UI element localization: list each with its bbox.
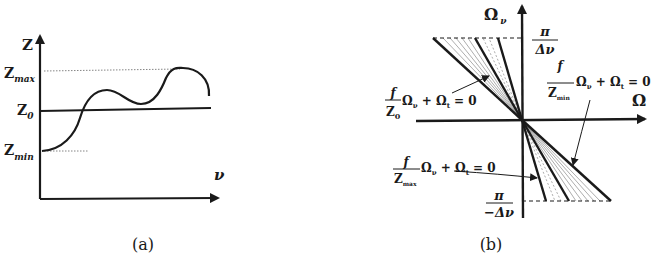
- svg-text:Zmin: Zmin: [548, 86, 570, 101]
- svg-text:π: π: [539, 24, 550, 39]
- pointer-zmin: [573, 100, 590, 165]
- nu-axis: [40, 198, 218, 199]
- equation-z0: f Z0 Ων + Ωt = 0: [385, 86, 477, 121]
- caption-a: (a): [132, 235, 154, 254]
- nu-axis-label: ν: [214, 166, 225, 184]
- bottom-limit-label: π −Δν: [484, 188, 514, 220]
- omega-axis: [416, 119, 645, 121]
- svg-text:−Δν: −Δν: [484, 205, 514, 220]
- top-limit-label: π Δν: [532, 24, 558, 57]
- figure-b: Ων Ω π Δν π −Δν f Z0 Ων + Ωt = 0: [385, 5, 651, 254]
- svg-text:f: f: [556, 59, 564, 73]
- svg-text:π: π: [493, 188, 504, 203]
- z-axis-label: Z: [22, 36, 33, 54]
- z-min-label: Zmin: [4, 142, 34, 162]
- z0-line: [40, 108, 211, 111]
- svg-text:Ων + Ωt = 0: Ων + Ωt = 0: [576, 75, 651, 91]
- svg-text:Ων + Ωt = 0: Ων + Ωt = 0: [421, 161, 496, 177]
- omega-axis-label: Ω: [632, 91, 646, 110]
- z-max-label: Zmax: [4, 65, 36, 84]
- svg-text:f: f: [402, 155, 410, 169]
- svg-text:Δν: Δν: [534, 42, 554, 57]
- line-z0-lower: [522, 120, 611, 201]
- svg-text:Z0: Z0: [386, 105, 401, 121]
- omega-nu-axis-label: Ων: [484, 5, 507, 26]
- caption-b: (b): [480, 235, 503, 254]
- z-max-line: [44, 69, 180, 71]
- svg-text:Zmax: Zmax: [394, 172, 417, 187]
- z0-label: Z0: [17, 102, 34, 121]
- svg-text:f: f: [389, 86, 397, 100]
- diagram-canvas: Z ν Zmax Z0 Zmin (a): [0, 0, 652, 262]
- line-mid-lower: [522, 120, 569, 201]
- figure-a: Z ν Zmax Z0 Zmin (a): [4, 36, 225, 254]
- equation-zmax: f Zmax Ων + Ωt = 0: [393, 155, 496, 187]
- omega-nu-axis: [522, 6, 523, 218]
- svg-text:Ων + Ωt = 0: Ων + Ωt = 0: [402, 94, 477, 110]
